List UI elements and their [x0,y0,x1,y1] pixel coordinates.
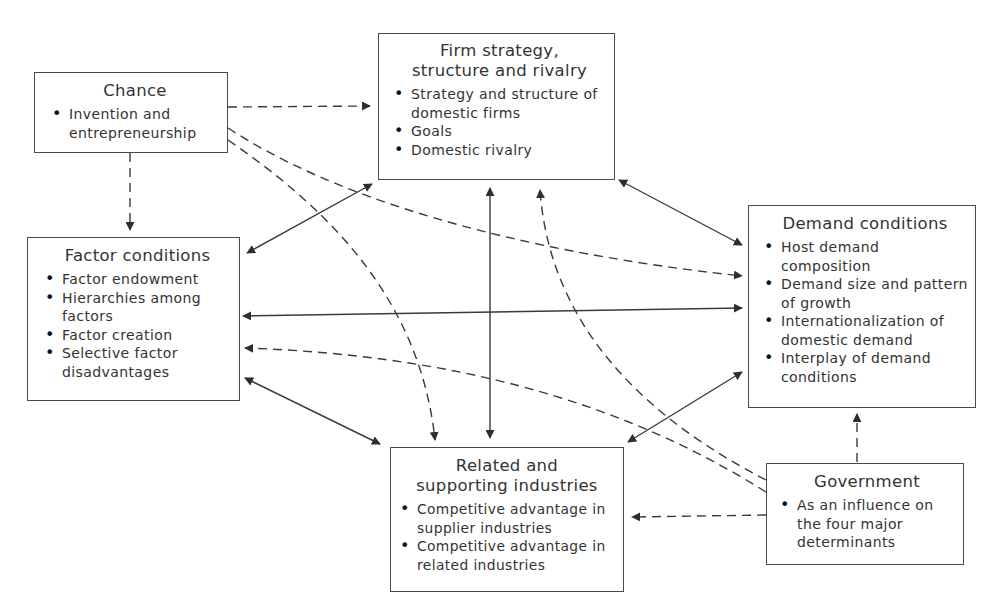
government-items: As an influence on the four major determ… [775,496,959,552]
chance-items: Invention and entrepreneurship [47,105,223,142]
firm-item: Domestic rivalry [389,141,610,160]
related-industries-box: Related and supporting industries Compet… [390,447,624,592]
edge-chance-firm [228,106,370,107]
edge-demand-related [628,372,742,442]
demand-item: Demand size and pattern of growth [759,275,971,312]
chance-item: Invention and entrepreneurship [47,105,223,142]
government-box: Government As an influence on the four m… [766,463,964,565]
edge-government-related [632,515,766,517]
edge-factor-related [245,378,380,444]
related-item: Competitive advantage in supplier indust… [395,500,619,537]
government-item: As an influence on the four major determ… [775,496,959,552]
factor-item: Factor creation [40,326,235,345]
edge-firm-demand [619,180,742,245]
related-items: Competitive advantage in supplier indust… [395,500,619,574]
firm-items: Strategy and structure of domestic firms… [389,85,610,159]
firm-item: Strategy and structure of domestic firms [389,85,610,122]
government-title: Government [775,472,959,492]
demand-item: Host demand composition [759,238,971,275]
edge-factor-demand [243,308,742,316]
demand-title: Demand conditions [759,214,971,234]
factor-item: Hierarchies among factors [40,289,235,326]
demand-conditions-box: Demand conditions Host demand compositio… [748,205,976,408]
factor-title: Factor conditions [40,246,235,266]
firm-strategy-box: Firm strategy, structure and rivalry Str… [378,33,615,180]
demand-items: Host demand composition Demand size and … [759,238,971,386]
factor-item: Factor endowment [40,270,235,289]
edge-chance-related [228,140,435,440]
factor-items: Factor endowment Hierarchies among facto… [40,270,235,381]
edge-firm-factor [247,184,372,253]
edge-government-firm [540,190,766,480]
chance-box: Chance Invention and entrepreneurship [34,72,228,153]
firm-title-line2: structure and rivalry [389,61,610,81]
factor-item: Selective factor disadvantages [40,344,235,381]
demand-item: Internationalization of domestic demand [759,312,971,349]
firm-item: Goals [389,122,610,141]
demand-item: Interplay of demand conditions [759,349,971,386]
chance-title: Chance [47,81,223,101]
related-item: Competitive advantage in related industr… [395,537,619,574]
related-title-line2: supporting industries [395,476,619,496]
related-title-line1: Related and [395,456,619,476]
factor-conditions-box: Factor conditions Factor endowment Hiera… [27,237,240,401]
firm-title-line1: Firm strategy, [389,41,610,61]
